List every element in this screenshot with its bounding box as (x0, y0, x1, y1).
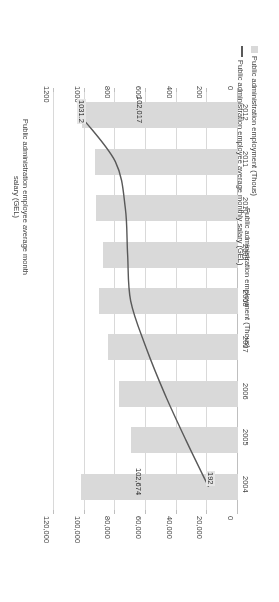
employment-tick-label: 40,000 (165, 516, 174, 539)
bar-data-label: 102,017 (135, 96, 144, 123)
salary-line-path (80, 115, 209, 487)
rotated-figure-wrapper: 020,00040,00060,00080,000100,000120,000 … (0, 0, 279, 602)
year-tick-label: 2005 (241, 429, 250, 446)
chart-legend: Public administration employment (Thous)… (12, 14, 267, 46)
combo-chart: 020,00040,00060,00080,000100,000120,000 … (0, 0, 279, 602)
legend-label-employment: Public administration employment (Thous) (250, 56, 259, 196)
legend-entry-employment[interactable]: Public administration employment (Thous) (250, 46, 259, 196)
plot-area: 102,674192102,0171031.2 (54, 92, 238, 510)
year-tick-label: 2006 (241, 383, 250, 400)
line-series (54, 92, 238, 510)
salary-axis-title-line1: Public administration employee average m… (21, 92, 30, 302)
employment-tick-mark (114, 510, 115, 514)
employment-tick-mark (145, 510, 146, 514)
employment-tick-mark (84, 510, 85, 514)
legend-label-salary: Public administration employee average m… (236, 60, 245, 266)
legend-bar-swatch-icon (251, 46, 258, 53)
salary-tick-label: 1200 (42, 86, 51, 103)
employment-tick-label: 60,000 (134, 516, 143, 539)
legend-entry-salary[interactable]: Public administration employee average m… (236, 46, 245, 266)
salary-tick-label: 0 (226, 86, 235, 90)
line-data-label: 192 (206, 471, 215, 486)
legend-line-swatch-icon (241, 46, 243, 57)
employment-tick-mark (237, 510, 238, 514)
line-data-label: 1031.2 (77, 99, 86, 124)
employment-tick-mark (176, 510, 177, 514)
bar-data-label: 102,674 (135, 468, 144, 495)
salary-axis-title: Public administration employee average m… (12, 92, 30, 302)
employment-tick-label: 0 (226, 516, 235, 520)
employment-tick-label: 80,000 (103, 516, 112, 539)
employment-tick-mark (206, 510, 207, 514)
salary-axis-title-line2: salary (GEL) (12, 92, 21, 302)
employment-tick-mark (53, 510, 54, 514)
employment-tick-label: 20,000 (195, 516, 204, 539)
employment-tick-label: 120,000 (42, 516, 51, 543)
employment-tick-label: 100,000 (73, 516, 82, 543)
year-tick-label: 2004 (241, 476, 250, 493)
